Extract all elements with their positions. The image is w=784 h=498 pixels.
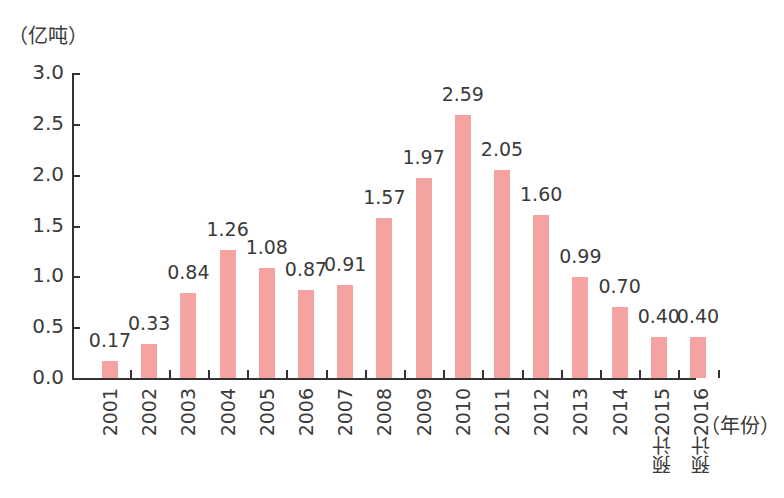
bar [612, 307, 628, 378]
bar [259, 268, 275, 378]
y-tick-label: 2.5 [4, 111, 64, 135]
x-tick-mark [482, 370, 484, 378]
x-tick-mark [561, 370, 563, 378]
x-tick-label: 2002 [138, 388, 160, 436]
x-tick-label: 2013 [569, 388, 591, 436]
bar [572, 277, 588, 378]
x-tick-mark [522, 370, 524, 378]
x-tick-label: 2001 [99, 388, 121, 436]
x-tick-label: 2007 [334, 388, 356, 436]
x-tick-label: 2014 [609, 388, 631, 436]
bar [416, 178, 432, 378]
x-tick-label: 2008 [373, 388, 395, 436]
bar-value-label: 2.05 [472, 138, 532, 160]
x-tick-mark [404, 370, 406, 378]
x-tick-mark [365, 370, 367, 378]
x-tick-mark [286, 370, 288, 378]
x-tick-mark [130, 370, 132, 378]
bar-value-label: 2.59 [433, 83, 493, 105]
bar [455, 115, 471, 378]
x-tick-mark [678, 370, 680, 378]
y-tick-label: 1.0 [4, 263, 64, 287]
bar [102, 361, 118, 378]
x-tick-label: 2009 [413, 388, 435, 436]
x-tick-label: 2012 [530, 388, 552, 436]
bar [533, 215, 549, 378]
x-tick-mark [718, 370, 720, 378]
x-tick-mark [326, 370, 328, 378]
x-tick-mark [169, 370, 171, 378]
x-axis-unit-label: （年份） [700, 410, 780, 439]
y-tick-label: 3.0 [4, 60, 64, 84]
y-axis-unit-label: （亿吨） [8, 20, 88, 49]
x-tick-label: 2005 [256, 388, 278, 436]
x-tick-mark [208, 370, 210, 378]
y-tick-label: 2.0 [4, 162, 64, 186]
bar [141, 344, 157, 378]
x-axis-line [72, 378, 696, 380]
bar-value-label: 1.97 [394, 146, 454, 168]
bar [337, 285, 353, 378]
x-tick-label: 2011 [491, 388, 513, 436]
bar-value-label: 0.33 [119, 312, 179, 334]
bar-value-label: 1.08 [237, 236, 297, 258]
x-tick-label: 2010 [452, 388, 474, 436]
bar [180, 293, 196, 378]
x-tick-label: 2003 [177, 388, 199, 436]
y-tick-label: 0.5 [4, 314, 64, 338]
x-tick-label: 预计2015 [648, 388, 675, 474]
x-tick-mark [443, 370, 445, 378]
bar-value-label: 0.40 [668, 305, 728, 327]
bar-value-label: 1.57 [354, 186, 414, 208]
x-tick-label: 2004 [217, 388, 239, 436]
bar [376, 218, 392, 378]
bar-value-label: 1.60 [511, 183, 571, 205]
bar-value-label: 0.91 [315, 253, 375, 275]
bar [220, 250, 236, 378]
x-tick-mark [639, 370, 641, 378]
bar-value-label: 0.84 [158, 261, 218, 283]
x-tick-mark [600, 370, 602, 378]
bar [298, 290, 314, 378]
x-tick-label: 2006 [295, 388, 317, 436]
bar-value-label: 0.70 [590, 275, 650, 297]
y-tick-label: 0.0 [4, 365, 64, 389]
y-axis-line [72, 74, 74, 380]
x-tick-mark [247, 370, 249, 378]
y-tick-label: 1.5 [4, 213, 64, 237]
bar [690, 337, 706, 378]
bar-value-label: 0.99 [550, 245, 610, 267]
bar [651, 337, 667, 378]
bar [494, 170, 510, 378]
